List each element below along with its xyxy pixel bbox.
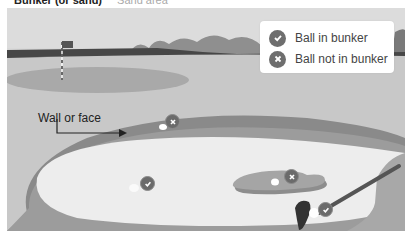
legend: Ball in bunker Ball not in bunker — [260, 21, 394, 73]
check-marker-icon — [140, 176, 155, 191]
x-circle-icon — [269, 51, 286, 68]
legend-item-in-bunker: Ball in bunker — [269, 29, 368, 47]
legend-label: Ball not in bunker — [295, 52, 388, 66]
header-partial: Bunker (or sand) Sand area — [14, 0, 408, 6]
header-title: Bunker (or sand) — [14, 0, 102, 6]
bunker-diagram: Ball in bunker Ball not in bunker Wall o… — [7, 8, 405, 231]
legend-label: Ball in bunker — [295, 31, 368, 45]
header-subtitle: Sand area — [117, 0, 168, 6]
x-marker-icon — [284, 169, 299, 184]
legend-item-not-in-bunker: Ball not in bunker — [269, 50, 388, 68]
check-circle-icon — [269, 30, 286, 47]
wall-or-face-label: Wall or face — [38, 111, 101, 125]
check-marker-icon — [318, 202, 333, 217]
x-marker-icon — [165, 114, 180, 129]
